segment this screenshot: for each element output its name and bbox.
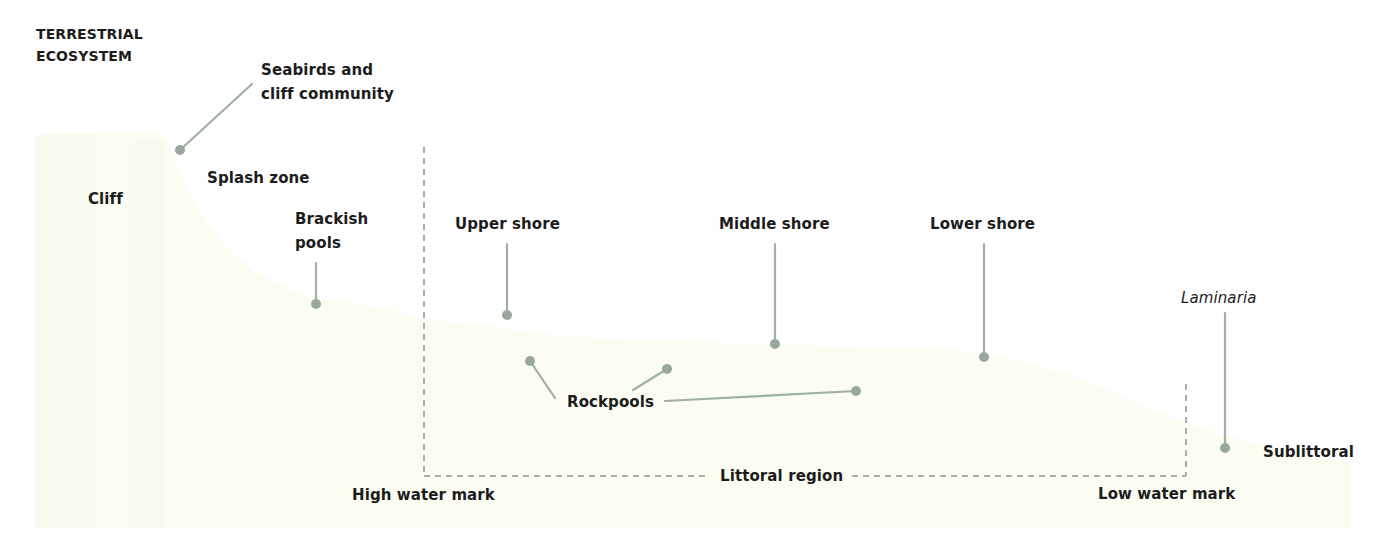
laminaria-label: Laminaria bbox=[1181, 286, 1256, 310]
middle-shore-dot bbox=[770, 339, 780, 349]
rockpool-dot-3 bbox=[851, 386, 861, 396]
brackish-pools-dot bbox=[311, 299, 321, 309]
seabirds-label: Seabirds and cliff community bbox=[261, 58, 394, 106]
lower-shore-label: Lower shore bbox=[930, 212, 1035, 236]
rockpools-label: Rockpools bbox=[567, 390, 654, 414]
middle-shore-label: Middle shore bbox=[719, 212, 830, 236]
low-water-mark-label: Low water mark bbox=[1098, 482, 1235, 506]
seabirds-dot bbox=[175, 145, 185, 155]
terrestrial-ecosystem-label: TERRESTRIAL ECOSYSTEM bbox=[36, 23, 143, 67]
laminaria-dot bbox=[1220, 443, 1230, 453]
cliff-shade bbox=[35, 135, 95, 528]
rockpool-dot-2 bbox=[662, 364, 672, 374]
rockpool-dot-1 bbox=[525, 356, 535, 366]
littoral-region-label: Littoral region bbox=[720, 464, 843, 488]
sublittoral-label: Sublittoral bbox=[1263, 440, 1354, 464]
brackish-pools-label: Brackish pools bbox=[295, 207, 368, 255]
lower-shore-dot bbox=[979, 352, 989, 362]
shore-cross-section bbox=[0, 0, 1387, 545]
upper-shore-dot bbox=[502, 310, 512, 320]
cliff-shade bbox=[130, 140, 165, 528]
seabirds-leader bbox=[180, 84, 252, 150]
land-profile bbox=[35, 133, 1350, 528]
high-water-mark-label: High water mark bbox=[352, 483, 495, 507]
splash-zone-label: Splash zone bbox=[207, 166, 310, 190]
cliff-label: Cliff bbox=[88, 187, 123, 211]
upper-shore-label: Upper shore bbox=[455, 212, 560, 236]
